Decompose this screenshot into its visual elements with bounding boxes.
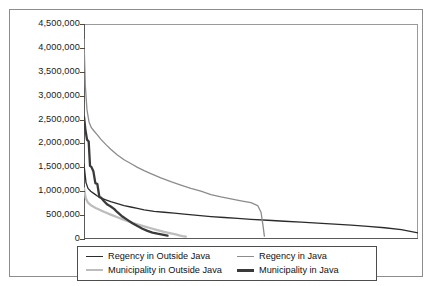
plot-wrapper: 4,500,0004,000,0003,500,0003,000,0002,50… <box>10 10 424 242</box>
legend-label: Regency in Outside Java <box>108 251 210 261</box>
y-axis-tick-label: 0 <box>14 234 80 243</box>
y-axis-tick-labels: 4,500,0004,000,0003,500,0003,000,0002,50… <box>12 10 80 242</box>
legend-item-regency-outside-java[interactable]: Regency in Outside Java <box>86 251 210 261</box>
legend-line-icon <box>86 256 103 257</box>
legend-label: Regency in Java <box>259 251 327 261</box>
legend-item-municipality-java[interactable]: Municipality in Java <box>237 265 339 275</box>
y-axis-tick-label: 3,500,000 <box>14 67 80 76</box>
y-axis-tick-mark <box>80 215 85 216</box>
y-axis-tick-label: 1,500,000 <box>14 162 80 171</box>
legend-line-icon <box>86 269 103 271</box>
y-axis-tick-mark <box>80 239 85 240</box>
y-axis-tick-mark <box>80 72 85 73</box>
y-axis-tick-mark <box>80 24 85 25</box>
y-axis-tick-mark <box>80 96 85 97</box>
legend-row: Municipality in Outside Java Municipalit… <box>78 265 378 281</box>
y-axis-tick-label: 2,000,000 <box>14 138 80 147</box>
legend-line-icon <box>237 256 254 257</box>
legend-item-municipality-outside-java[interactable]: Municipality in Outside Java <box>86 265 222 275</box>
y-axis-tick-label: 1,000,000 <box>14 186 80 195</box>
y-axis-tick-mark <box>80 143 85 144</box>
y-axis-tick-label: 4,500,000 <box>14 19 80 28</box>
y-axis-tick-mark <box>80 167 85 168</box>
legend-label: Municipality in Outside Java <box>108 265 222 275</box>
chart-frame: 4,500,0004,000,0003,500,0003,000,0002,50… <box>9 9 423 277</box>
legend-label: Municipality in Java <box>259 265 339 275</box>
y-axis-tick-label: 4,000,000 <box>14 43 80 52</box>
legend-item-regency-java[interactable]: Regency in Java <box>237 251 327 261</box>
chart-legend: Regency in Outside Java Regency in Java … <box>77 246 377 281</box>
y-axis-tick-label: 3,000,000 <box>14 91 80 100</box>
legend-line-icon <box>237 269 254 272</box>
y-axis-tick-label: 500,000 <box>14 210 80 219</box>
y-axis-tick-label: 2,500,000 <box>14 115 80 124</box>
y-axis-tick-mark <box>80 120 85 121</box>
y-axis-tick-mark <box>80 48 85 49</box>
series-lines <box>84 24 418 239</box>
y-axis-tick-mark <box>80 191 85 192</box>
